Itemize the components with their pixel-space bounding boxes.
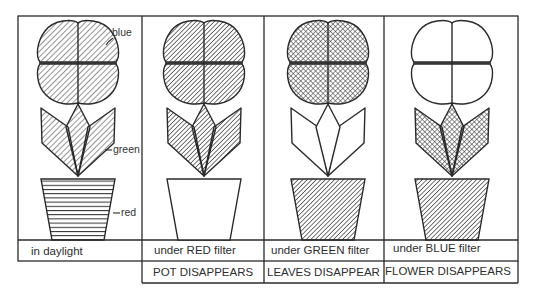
caption-red-filter: under RED filter <box>154 240 236 260</box>
caption-blue-filter: under BLUE filter <box>393 238 481 258</box>
result-leaves-disappear: LEAVES DISAPPEAR <box>267 262 380 282</box>
result-pot-disappears: POT DISAPPEARS <box>153 262 253 282</box>
panel-red-filter <box>163 21 244 240</box>
panel-green-filter <box>287 21 368 240</box>
result-flower-disappears: FLOWER DISAPPEARS <box>385 261 511 281</box>
label-flower-color: blue <box>112 26 132 38</box>
panel-daylight <box>37 21 118 240</box>
label-pot-color: red <box>121 206 136 218</box>
panel-blue-filter <box>411 21 492 240</box>
label-leaves-color: green <box>113 143 140 155</box>
caption-green-filter: under GREEN filter <box>271 240 369 260</box>
caption-daylight: in daylight <box>31 241 83 261</box>
